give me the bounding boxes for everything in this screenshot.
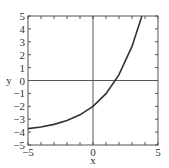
y-tick-labels: −5−4−3−2−1012345 <box>13 10 25 151</box>
y-tick-label: −2 <box>13 100 25 112</box>
x-tick-label: 5 <box>155 146 161 158</box>
x-axis-label: x <box>90 154 96 166</box>
y-tick-label: −3 <box>13 113 25 125</box>
y-tick-label: 2 <box>20 49 26 61</box>
y-tick-label: 1 <box>20 62 26 74</box>
y-tick-label: 4 <box>20 23 26 35</box>
y-tick-label: 5 <box>20 10 26 22</box>
y-tick-label: −1 <box>13 87 25 99</box>
y-tick-label: 3 <box>20 36 26 48</box>
y-axis-label: y <box>6 74 12 86</box>
y-tick-label: 0 <box>20 75 26 87</box>
x-tick-label: −5 <box>22 146 34 158</box>
data-curve <box>28 16 142 129</box>
chart: −5−4−3−2−1012345 −505 x y <box>0 0 169 168</box>
y-tick-label: −4 <box>13 126 25 138</box>
